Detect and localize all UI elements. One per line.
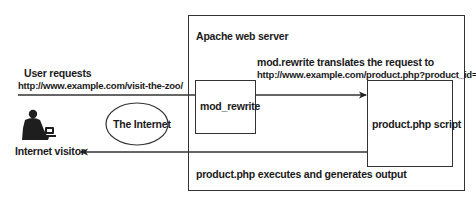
translation-url: http://www.example.com/product.php?produ… <box>257 69 476 80</box>
translation-line1: mod.rewrite translates the request to <box>257 56 434 68</box>
apache-server-label: Apache web server <box>196 30 288 42</box>
request-line1: User requests <box>24 67 91 79</box>
output-label: product.php executes and generates outpu… <box>196 168 407 180</box>
product-script-label: product.php script <box>372 118 461 130</box>
visitor-label: Internet visitor <box>15 145 85 157</box>
person-at-computer-icon <box>22 110 56 140</box>
mod-rewrite-label: mod_rewrite <box>200 100 260 112</box>
request-url: http://www.example.com/visit-the-zoo/ <box>18 80 183 91</box>
internet-label: The Internet <box>113 118 171 130</box>
